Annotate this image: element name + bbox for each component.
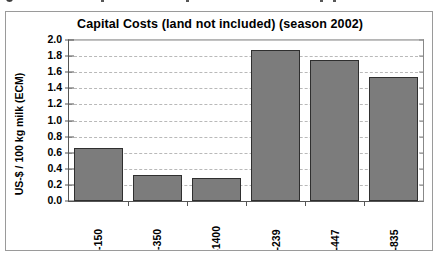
caption-fragment-mark [101,0,104,2]
y-axis-tick-label: 0.2 [28,178,62,190]
plot-area [68,39,424,202]
y-axis-tick-label: 1.8 [28,49,62,61]
x-label-slot: NZ-835 [365,203,424,251]
x-label-slot: AR-150 [68,203,127,251]
x-label-slot: NZ-447 [305,203,364,251]
bar-slot [246,40,305,201]
bar-AR-1400[interactable] [192,178,242,201]
bar-NZ-239[interactable] [251,50,301,201]
y-axis-tick-label: 1.6 [28,65,62,77]
clipped-caption-remnant [0,0,439,11]
y-axis-tick-label: 1.2 [28,97,62,109]
x-axis-tick-label-NZ-239: NZ-239 [270,229,282,251]
x-label-slot: NZ-239 [246,203,305,251]
bar-series-group [69,40,423,201]
y-axis-tick-label: 1.4 [28,81,62,93]
bar-slot [128,40,187,201]
x-axis-tick-label-AR-350: AR-350 [151,229,163,251]
bar-slot [187,40,246,201]
x-axis-tick-label-NZ-835: NZ-835 [388,229,400,251]
bar-AR-150[interactable] [74,148,124,201]
chart-container: Capital Costs (land not included) (seaso… [5,11,433,251]
y-axis-tick-label: 0.4 [28,162,62,174]
bar-slot [305,40,364,201]
y-axis-tick-label: 2.0 [28,33,62,45]
caption-fragment-bullet [6,0,13,2]
x-axis-tick-label-AR-1400: AR-1400 [210,226,222,251]
y-axis-tick-label: 0.8 [28,130,62,142]
caption-fragment-mark [186,0,189,2]
bar-slot [364,40,423,201]
caption-fragment-mark [320,0,323,2]
caption-fragment-mark [333,0,336,2]
bar-NZ-447[interactable] [310,60,360,201]
x-label-slot: AR-350 [127,203,186,251]
x-axis-tick-label-AR-150: AR-150 [92,229,104,251]
y-axis-tick-label: 0.6 [28,146,62,158]
bar-NZ-835[interactable] [369,77,419,201]
bar-AR-350[interactable] [133,175,183,201]
chart-title: Capital Costs (land not included) (seaso… [6,17,433,31]
y-axis-tick-label: 0.0 [28,194,62,206]
x-axis-tick-label-NZ-447: NZ-447 [329,229,341,251]
x-axis-tick-labels-group: AR-150AR-350AR-1400NZ-239NZ-447NZ-835 [68,203,424,251]
y-axis-tick-label: 1.0 [28,114,62,126]
bar-slot [69,40,128,201]
x-label-slot: AR-1400 [187,203,246,251]
y-axis-title: US-$ / 100 kg milk (ECM) [13,49,25,219]
